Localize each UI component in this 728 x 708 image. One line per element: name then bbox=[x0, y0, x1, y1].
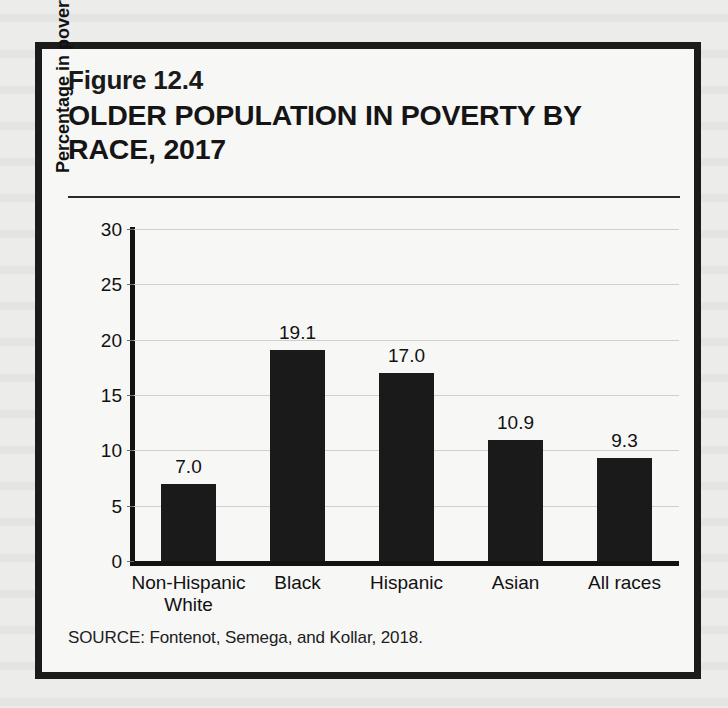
y-axis-title: Percentage in poverty bbox=[50, 0, 76, 245]
bar-value-label: 7.0 bbox=[134, 457, 243, 476]
bar bbox=[379, 373, 434, 561]
bar-slot: 10.9Asian bbox=[461, 229, 570, 561]
bar-slot: 19.1Black bbox=[243, 229, 352, 561]
y-axis-tick bbox=[127, 229, 134, 230]
x-axis-line bbox=[130, 561, 679, 566]
y-axis-tick-label: 20 bbox=[101, 330, 122, 349]
bar-value-label: 10.9 bbox=[461, 413, 570, 432]
y-axis-tick bbox=[127, 284, 134, 285]
y-axis-tick-label: 0 bbox=[111, 552, 122, 571]
x-axis-category-label: All races bbox=[557, 572, 692, 594]
figure-card-inner: Figure 12.4 OLDER POPULATION IN POVERTY … bbox=[42, 49, 694, 672]
y-axis-tick-label: 30 bbox=[101, 220, 122, 239]
y-axis-tick bbox=[127, 506, 134, 507]
source-note: SOURCE: Fontenot, Semega, and Kollar, 20… bbox=[68, 628, 423, 648]
figure-card: Figure 12.4 OLDER POPULATION IN POVERTY … bbox=[35, 42, 701, 679]
bar-value-label: 9.3 bbox=[570, 431, 679, 450]
bar bbox=[161, 484, 216, 561]
bar-value-label: 19.1 bbox=[243, 323, 352, 342]
y-axis-tick bbox=[127, 561, 134, 562]
y-axis-tick bbox=[127, 340, 134, 341]
bar-slot: 17.0Hispanic bbox=[352, 229, 461, 561]
bar-chart: Percentage in poverty 0510152025307.0Non… bbox=[42, 49, 694, 672]
y-axis-tick-label: 5 bbox=[111, 496, 122, 515]
plot-area: 0510152025307.0Non-Hispanic White19.1Bla… bbox=[134, 229, 679, 561]
bar bbox=[488, 440, 543, 561]
y-axis-tick bbox=[127, 395, 134, 396]
bar-slot: 7.0Non-Hispanic White bbox=[134, 229, 243, 561]
bar bbox=[270, 350, 325, 561]
y-axis-tick-label: 10 bbox=[101, 441, 122, 460]
bar-slot: 9.3All races bbox=[570, 229, 679, 561]
bar bbox=[597, 458, 652, 561]
y-axis-tick-label: 25 bbox=[101, 275, 122, 294]
y-axis-tick-label: 15 bbox=[101, 386, 122, 405]
y-axis-tick bbox=[127, 450, 134, 451]
bar-value-label: 17.0 bbox=[352, 346, 461, 365]
